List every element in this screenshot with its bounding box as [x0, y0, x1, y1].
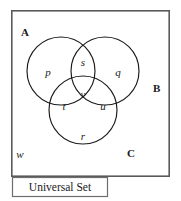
region-label-p: p	[44, 66, 51, 78]
region-label-t: t	[62, 100, 66, 112]
region-label-u: u	[100, 100, 106, 112]
set-b-label: B	[153, 82, 161, 94]
region-label-r: r	[81, 130, 86, 142]
venn-diagram: A B C p s q v t u r w Universal Set	[0, 0, 181, 201]
venn-diagram-canvas: A B C p s q v t u r w Universal Set	[0, 0, 181, 201]
universal-set-caption-label: Universal Set	[29, 181, 92, 193]
region-label-v: v	[81, 88, 86, 100]
region-label-s: s	[81, 56, 85, 68]
set-a-label: A	[21, 26, 29, 38]
set-c-label: C	[127, 147, 135, 159]
region-label-q: q	[115, 66, 121, 78]
region-label-w: w	[16, 148, 24, 160]
